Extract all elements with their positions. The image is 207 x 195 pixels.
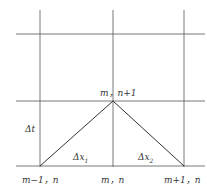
label-dt: Δt	[25, 124, 35, 134]
label-dx2-text: Δx	[138, 152, 150, 162]
label-left-node: m−1，n	[22, 173, 59, 186]
label-dx1-text: Δx	[73, 152, 85, 162]
label-mid-node: m，n	[101, 173, 124, 186]
label-dx2: Δx2	[138, 152, 153, 164]
stencil-lines	[40, 101, 184, 166]
label-dx1: Δx1	[73, 152, 88, 164]
label-dx2-subscript: 2	[150, 157, 154, 164]
label-dx1-subscript: 1	[85, 157, 89, 164]
label-right-node: m+1，n	[164, 173, 201, 186]
label-top-node: m，n+1	[100, 86, 137, 99]
